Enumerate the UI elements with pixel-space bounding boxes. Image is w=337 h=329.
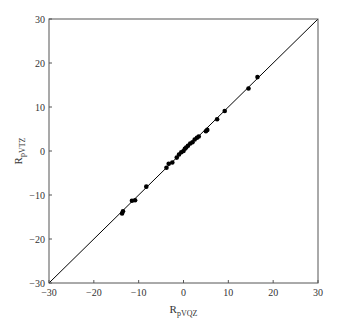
x-tick-label: 30 <box>313 287 323 298</box>
x-axis-label: RpVQZ <box>170 303 198 318</box>
data-point <box>164 165 169 170</box>
data-points <box>120 75 260 216</box>
data-point <box>196 134 201 139</box>
x-axis-label-sub: pVQZ <box>177 309 198 318</box>
y-tick-label: 10 <box>35 102 45 113</box>
x-tick-label: 20 <box>268 287 278 298</box>
x-tick-label: −10 <box>131 287 147 298</box>
y-axis-label-sub: pVTZ <box>18 137 27 157</box>
data-point <box>255 75 260 80</box>
data-point <box>133 198 138 203</box>
y-tick-label: 30 <box>35 14 45 25</box>
x-tick-label: 0 <box>181 287 186 298</box>
data-point <box>144 184 149 189</box>
data-point <box>205 128 210 133</box>
x-tick-label: 10 <box>223 287 233 298</box>
x-tick-label: −30 <box>41 287 57 298</box>
y-tick-label: −10 <box>29 190 45 201</box>
y-tick-label: −30 <box>29 278 45 289</box>
data-point <box>246 86 251 91</box>
y-tick-label: 0 <box>40 146 45 157</box>
data-point <box>222 109 227 114</box>
data-point <box>121 209 126 214</box>
y-tick-label: −20 <box>29 234 45 245</box>
data-point <box>170 160 175 165</box>
scatter-chart: −30−20−100102030 −30−20−100102030 RpVQZ … <box>0 0 337 329</box>
y-tick-label: 20 <box>35 58 45 69</box>
data-point <box>215 117 220 122</box>
y-axis-label: RpVTZ <box>12 137 27 164</box>
x-tick-label: −20 <box>86 287 102 298</box>
